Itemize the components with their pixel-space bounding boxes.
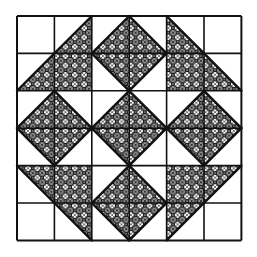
quilt-diagram — [0, 0, 257, 257]
quilt-cell-full — [167, 166, 204, 203]
quilt-cell-full — [167, 53, 204, 90]
grid-lines — [17, 16, 241, 240]
quilt-cell-full — [54, 53, 91, 90]
quilt-cell-full — [54, 166, 91, 203]
